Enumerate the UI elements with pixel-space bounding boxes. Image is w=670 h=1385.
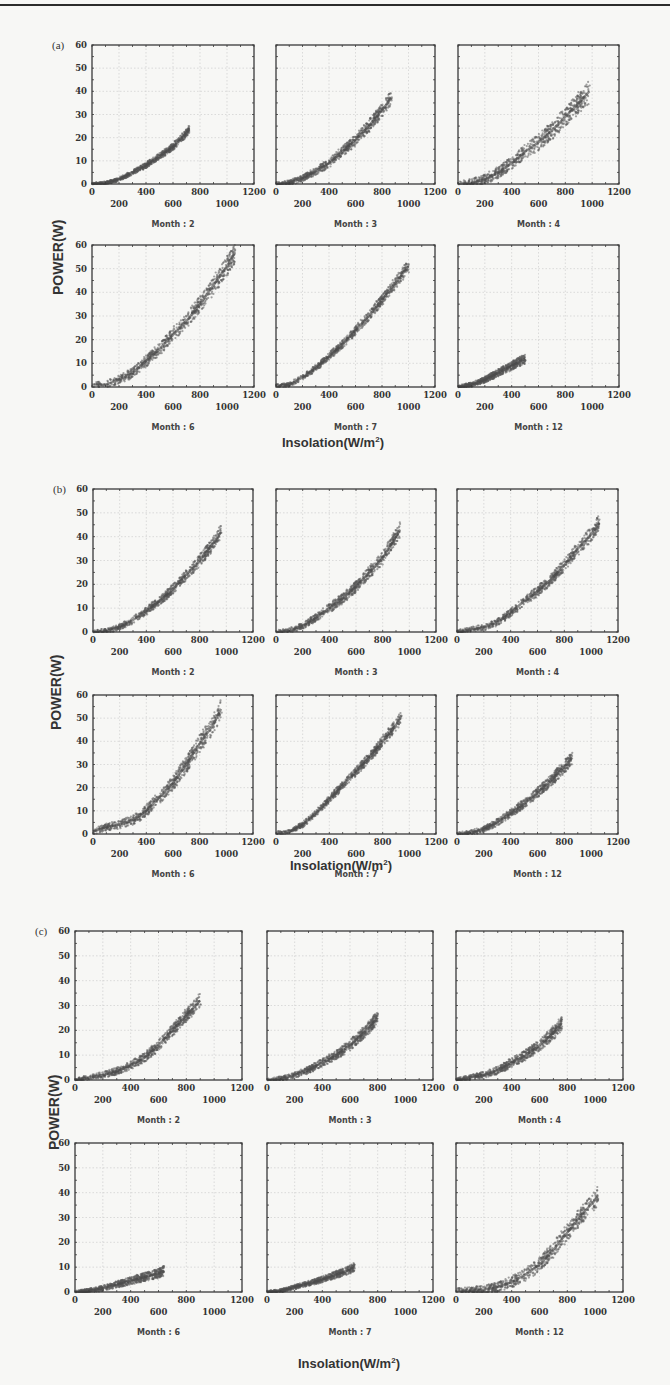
x-axis-label-text: Insolation(W/m: [298, 1356, 391, 1371]
x-tick-label: 1000: [583, 1095, 607, 1105]
scatter-plot-svg: 040080012002006001000: [457, 489, 618, 662]
x-tick-label: 1200: [611, 1083, 635, 1093]
x-tick-label: 1200: [423, 390, 447, 400]
scatter-panel: 040080012002006001000: [456, 1143, 623, 1292]
x-tick-label: 0: [72, 1295, 78, 1305]
y-tick-label: 50: [76, 508, 88, 518]
x-tick-label: 800: [191, 837, 209, 847]
x-tick-label: 1000: [393, 1095, 417, 1105]
panel-month-label: Month : 2: [133, 220, 213, 229]
x-tick-label: 200: [475, 1307, 493, 1317]
x-tick-label: 800: [374, 837, 392, 847]
x-tick-label: 200: [475, 1095, 493, 1105]
x-tick-label: 200: [111, 849, 129, 859]
x-tick-label: 1200: [606, 837, 630, 847]
scatter-plot-svg: 040080012002006001000: [276, 489, 436, 662]
panel-month-label: Month : 12: [499, 423, 579, 432]
x-tick-label: 200: [476, 402, 494, 412]
x-tick-label: 400: [313, 1083, 331, 1093]
y-tick-label: 40: [76, 532, 88, 542]
y-tick-label: 30: [75, 311, 87, 321]
y-tick-label: 10: [76, 603, 88, 613]
y-tick-label: 20: [58, 1237, 70, 1247]
x-tick-label: 800: [556, 187, 574, 197]
x-tick-label: 200: [94, 1095, 112, 1105]
x-tick-label: 0: [273, 837, 279, 847]
y-tick-label: 50: [58, 951, 70, 961]
y-tick-label: 40: [75, 287, 87, 297]
panel-month-label: Month : 6: [133, 870, 213, 879]
y-tick-label: 50: [75, 63, 87, 73]
scatter-plot-svg: 040080012002006001000: [276, 695, 436, 864]
x-tick-label: 1000: [397, 849, 421, 859]
y-tick-label: 30: [58, 1213, 70, 1223]
x-tick-label: 200: [475, 647, 493, 657]
x-tick-label: 400: [320, 390, 338, 400]
x-tick-label: 1200: [241, 837, 265, 847]
scatter-panel: 040080012002006001000: [267, 931, 433, 1080]
x-tick-label: 400: [122, 1295, 140, 1305]
y-tick-label: 60: [58, 926, 70, 936]
x-tick-label: 800: [373, 187, 391, 197]
x-tick-label: 800: [558, 1295, 576, 1305]
x-tick-label: 400: [320, 187, 338, 197]
x-axis-label-close: ): [396, 1356, 400, 1371]
x-tick-label: 800: [369, 1083, 387, 1093]
x-tick-label: 400: [137, 187, 155, 197]
panel-month-label: Month : 12: [498, 870, 578, 879]
x-tick-label: 400: [137, 837, 155, 847]
x-tick-label: 1200: [423, 187, 447, 197]
x-tick-label: 1000: [579, 647, 603, 657]
y-tick-label: 30: [58, 1001, 70, 1011]
y-tick-label: 0: [82, 829, 88, 839]
panel-month-label: Month : 2: [119, 1116, 199, 1125]
y-axis-label: POWER(W): [48, 655, 64, 730]
x-tick-label: 1000: [397, 647, 421, 657]
panel-month-label: Month : 2: [133, 668, 213, 677]
x-tick-label: 400: [137, 390, 155, 400]
x-tick-label: 600: [341, 1307, 359, 1317]
x-tick-label: 0: [454, 635, 460, 645]
y-tick-label: 40: [58, 1188, 70, 1198]
y-tick-label: 60: [75, 40, 87, 50]
x-axis-label-close: ): [380, 435, 384, 450]
scatter-plot-svg: 040080012002006001000: [456, 1143, 623, 1322]
y-tick-label: 10: [58, 1050, 70, 1060]
x-tick-label: 800: [191, 635, 209, 645]
panel-month-label: Month : 3: [316, 668, 396, 677]
x-tick-label: 600: [150, 1307, 168, 1317]
x-tick-label: 800: [555, 635, 573, 645]
page-top-rule: [0, 4, 670, 6]
y-tick-label: 0: [81, 382, 87, 392]
x-tick-label: 1200: [424, 837, 448, 847]
y-tick-label: 30: [75, 110, 87, 120]
scatter-plot-svg: 040080012002006001000: [458, 45, 619, 214]
x-tick-label: 0: [455, 390, 461, 400]
x-tick-label: 400: [502, 635, 520, 645]
x-tick-label: 800: [177, 1083, 195, 1093]
scatter-panel: 040080012002006001000: [276, 45, 435, 184]
x-tick-label: 200: [110, 402, 128, 412]
panel-month-label: Month : 6: [133, 423, 213, 432]
x-tick-label: 600: [341, 1095, 359, 1105]
x-tick-label: 800: [555, 837, 573, 847]
x-tick-label: 1000: [579, 849, 603, 859]
scatter-plot-svg: 040080012002006001000: [457, 695, 618, 864]
x-tick-label: 1200: [421, 1295, 445, 1305]
x-tick-label: 0: [90, 837, 96, 847]
x-tick-label: 600: [164, 199, 182, 209]
x-tick-label: 200: [286, 1095, 304, 1105]
x-tick-label: 600: [531, 1095, 549, 1105]
x-tick-label: 800: [558, 1083, 576, 1093]
y-tick-label: 10: [75, 156, 87, 166]
x-tick-label: 200: [110, 199, 128, 209]
y-tick-label: 30: [76, 556, 88, 566]
x-tick-label: 0: [453, 1083, 459, 1093]
x-tick-label: 200: [294, 402, 312, 412]
y-tick-label: 0: [64, 1075, 70, 1085]
scatter-plot-svg: 0400800120020060010000102030405060: [75, 931, 242, 1110]
x-tick-label: 0: [273, 635, 279, 645]
scatter-plot-svg: 040080012002006001000: [267, 931, 433, 1110]
x-tick-label: 400: [320, 635, 338, 645]
scatter-plot-svg: 040080012002006001000: [276, 45, 435, 214]
